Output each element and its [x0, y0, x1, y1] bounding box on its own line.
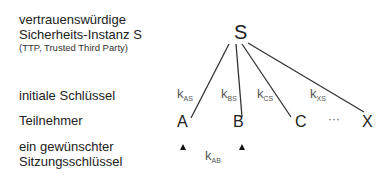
line-s-b: [236, 44, 242, 117]
key-k-xs: kXS: [310, 86, 326, 102]
node-b: B: [233, 114, 244, 130]
node-x: X: [362, 114, 373, 130]
line-s-a: [191, 44, 229, 118]
key-k-cs: kCS: [257, 86, 273, 102]
triangle-marker-b: [239, 144, 245, 150]
key-k-bs: kBS: [221, 86, 237, 102]
key-k-ab: kAB: [205, 148, 221, 164]
key-k-as: kAS: [177, 86, 193, 102]
key-distribution-lines: [0, 0, 388, 177]
line-s-c: [242, 44, 291, 117]
node-server-s: S: [234, 22, 247, 42]
node-c: C: [295, 114, 307, 130]
node-a: A: [177, 114, 188, 130]
ellipsis: ···: [328, 112, 340, 126]
triangle-marker-a: [180, 144, 186, 150]
